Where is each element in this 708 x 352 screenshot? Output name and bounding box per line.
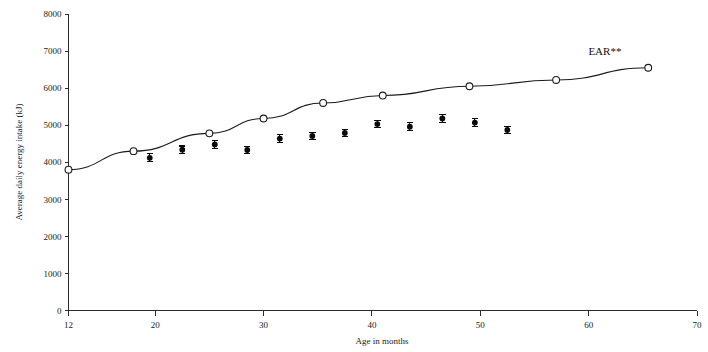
x-tick-label-40: 40 — [367, 320, 377, 330]
observed-data-point — [407, 124, 413, 130]
ear-marker-point — [645, 64, 652, 71]
y-tick-label-5000: 5000 — [44, 120, 63, 130]
observed-data-points — [147, 115, 511, 162]
observed-data-point — [342, 130, 348, 136]
y-tick-label-3000: 3000 — [44, 195, 63, 205]
y-tick-label-1000: 1000 — [44, 269, 63, 279]
chart-annotations: EAR** — [588, 45, 621, 57]
observed-data-point — [212, 142, 218, 148]
x-tick-label-70: 70 — [693, 320, 703, 330]
y-tick-label-6000: 6000 — [44, 83, 63, 93]
observed-point-group — [504, 126, 510, 133]
observed-data-point — [504, 127, 510, 133]
y-tick-label-8000: 8000 — [44, 9, 63, 19]
y-tick-label-4000: 4000 — [44, 157, 63, 167]
observed-data-point — [179, 147, 185, 153]
y-axis: 010002000300040005000600070008000 Averag… — [14, 9, 69, 316]
y-axis-tick-labels: 010002000300040005000600070008000 — [44, 9, 63, 316]
observed-data-point — [374, 121, 380, 127]
observed-data-point — [277, 136, 283, 142]
observed-point-group — [407, 123, 413, 131]
observed-point-group — [472, 119, 478, 127]
x-tick-label-50: 50 — [476, 320, 486, 330]
ear-marker-point — [466, 83, 473, 90]
observed-data-point — [309, 133, 315, 139]
ear-marker-point — [553, 77, 560, 84]
y-axis-title: Average daily energy intake (kJ) — [14, 103, 24, 220]
ear-markers — [65, 64, 652, 173]
observed-data-point — [472, 120, 478, 126]
observed-data-point — [244, 147, 250, 153]
series-ear — [65, 64, 652, 173]
observed-data-point — [439, 116, 445, 122]
observed-point-group — [342, 129, 348, 136]
x-axis-ticks — [69, 311, 698, 316]
observed-point-group — [277, 135, 283, 142]
x-tick-label-60: 60 — [584, 320, 594, 330]
series-observed-intake — [147, 115, 511, 162]
observed-point-group — [244, 146, 250, 153]
ear-marker-point — [65, 166, 72, 173]
ear-marker-point — [130, 148, 137, 155]
y-tick-label-7000: 7000 — [44, 46, 63, 56]
observed-point-group — [212, 141, 218, 148]
x-axis-tick-labels: 12203040506070 — [64, 320, 702, 330]
y-tick-label-2000: 2000 — [44, 232, 63, 242]
observed-point-group — [439, 115, 445, 122]
x-axis-title: Age in months — [356, 336, 409, 346]
observed-point-group — [179, 146, 185, 153]
ear-marker-point — [320, 100, 327, 107]
x-axis: 12203040506070 Age in months — [64, 311, 702, 347]
ear-marker-point — [206, 130, 213, 137]
x-tick-label-12: 12 — [64, 320, 73, 330]
ear-reference-line — [69, 68, 649, 170]
ear-series-label: EAR** — [588, 45, 621, 57]
chart-figure: 010002000300040005000600070008000 Averag… — [0, 0, 708, 352]
x-tick-label-30: 30 — [259, 320, 269, 330]
observed-point-group — [374, 120, 380, 127]
energy-intake-chart: 010002000300040005000600070008000 Averag… — [0, 0, 708, 352]
ear-marker-point — [379, 92, 386, 99]
observed-point-group — [147, 154, 153, 162]
observed-data-point — [147, 155, 153, 161]
ear-marker-point — [260, 115, 267, 122]
y-axis-ticks — [65, 14, 69, 311]
x-tick-label-20: 20 — [151, 320, 161, 330]
observed-point-group — [309, 132, 315, 139]
y-tick-label-0: 0 — [57, 306, 62, 316]
